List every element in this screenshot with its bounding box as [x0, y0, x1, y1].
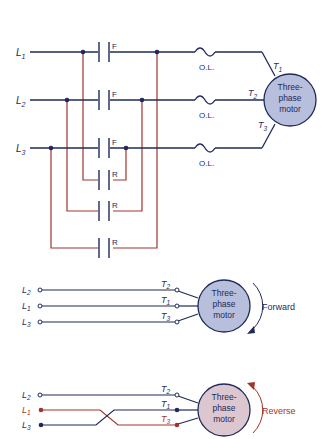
rev-terminal-T2: T2 — [161, 384, 171, 395]
rev-terminal-T3: T3 — [161, 414, 171, 425]
reverse-connection-diagram: Three- phase motor Reverse L2 L1 L3 T2 T… — [22, 382, 296, 436]
line-label-L3: L3 — [16, 143, 26, 156]
contact-label-R1: R — [112, 170, 118, 179]
contact-label-F1: F — [112, 42, 117, 51]
forward-connection-diagram: Three- phase motor Forward L2 L1 L3 T2 T… — [22, 279, 295, 334]
reverse-label: Reverse — [262, 406, 296, 416]
rev-line-label-L1: L1 — [22, 405, 31, 416]
line-label-L1: L1 — [16, 47, 26, 60]
terminal-label-T2: T2 — [248, 88, 258, 100]
forward-arrowhead-icon — [247, 326, 255, 334]
terminal-label-T3: T3 — [258, 120, 268, 132]
contact-label-R2: R — [112, 201, 118, 210]
reverse-wiring — [51, 52, 157, 248]
rev-line-label-L2: L2 — [22, 390, 31, 401]
forward-label: Forward — [262, 302, 295, 312]
motor-reverse-line1: Three- — [211, 392, 236, 402]
fwd-line-label-L2: L2 — [22, 285, 31, 296]
overload-label-3: O.L. — [199, 159, 214, 168]
terminal-label-T1: T1 — [273, 61, 283, 73]
motor-top-line2: phase — [278, 93, 301, 103]
line-label-L2: L2 — [16, 95, 26, 108]
reversing-motor-diagram: L1 L2 L3 F F F R R R O.L. O.L. O.L. Thre… — [0, 0, 331, 439]
fwd-terminal-T2: T2 — [161, 279, 171, 290]
forward-contacts[interactable] — [99, 42, 109, 158]
motor-forward-line3: motor — [213, 310, 235, 320]
overload-label-2: O.L. — [199, 111, 214, 120]
rev-line-label-L3: L3 — [22, 420, 31, 431]
contact-label-F3: F — [112, 138, 117, 147]
fwd-line-label-L3: L3 — [22, 317, 31, 328]
motor-top-line3: motor — [279, 104, 301, 114]
motor-top-line1: Three- — [277, 82, 302, 92]
motor-forward-line1: Three- — [211, 288, 236, 298]
fwd-terminal-T3: T3 — [161, 311, 171, 322]
junction-dots — [49, 50, 160, 151]
fwd-terminal-T1: T1 — [161, 295, 171, 306]
top-power-circuit: L1 L2 L3 F F F R R R O.L. O.L. O.L. Thre… — [16, 42, 316, 258]
contact-label-R3: R — [112, 238, 118, 247]
contact-label-F2: F — [112, 90, 117, 99]
fwd-line-label-L1: L1 — [22, 301, 31, 312]
overload-label-1: O.L. — [199, 63, 214, 72]
motor-reverse-line3: motor — [213, 414, 235, 424]
motor-forward-line2: phase — [212, 299, 235, 309]
rev-terminal-T1: T1 — [161, 399, 171, 410]
motor-reverse-line2: phase — [212, 403, 235, 413]
reverse-contacts[interactable] — [99, 170, 109, 258]
reverse-arrowhead-icon — [247, 382, 255, 390]
